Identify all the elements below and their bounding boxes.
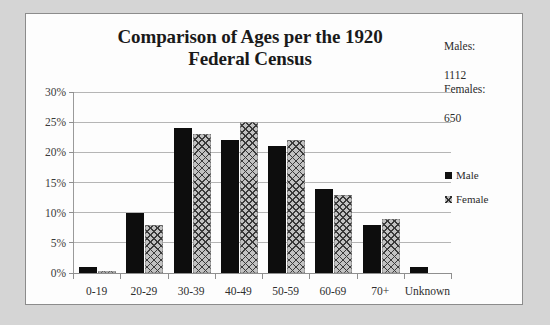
y-tick-5 — [69, 242, 74, 243]
annotation-males-label: Males: — [444, 39, 475, 54]
bar-male-40-49 — [221, 140, 239, 273]
x-axis-label-30-39: 30-39 — [178, 285, 205, 297]
y-axis-label-25%: 25% — [45, 116, 66, 128]
y-tick-10 — [69, 212, 74, 213]
y-tick-30 — [69, 92, 74, 93]
x-axis-label-20-29: 20-29 — [130, 285, 157, 297]
y-axis-label-30%: 30% — [45, 86, 66, 98]
x-axis-label-60-69: 60-69 — [319, 285, 346, 297]
x-tick-6 — [357, 273, 358, 279]
chart-title-line-1: Comparison of Ages per the 1920 — [66, 26, 434, 48]
x-axis-label-Unknown: Unknown — [405, 285, 450, 297]
bar-male-60-69 — [315, 189, 333, 273]
x-axis-label-0-19: 0-19 — [86, 285, 107, 297]
bar-male-70+ — [363, 225, 381, 273]
bar-female-70+ — [382, 219, 400, 273]
y-axis-label-15%: 15% — [45, 177, 66, 189]
legend-item-female: Female — [445, 193, 488, 205]
bar-female-50-59 — [287, 140, 305, 273]
bar-female-30-39 — [193, 134, 211, 273]
gridline-15 — [74, 182, 451, 183]
bar-male-20-29 — [126, 213, 144, 273]
x-tick-8 — [451, 273, 452, 279]
legend-label-male: Male — [456, 169, 479, 181]
chart-panel: Comparison of Ages per the 1920 Federal … — [25, 13, 523, 305]
y-tick-20 — [69, 152, 74, 153]
x-tick-4 — [262, 273, 263, 279]
bar-female-20-29 — [145, 225, 163, 273]
chart-screenshot: Comparison of Ages per the 1920 Federal … — [0, 0, 550, 325]
y-axis-label-0%: 0% — [51, 267, 66, 279]
y-tick-25 — [69, 122, 74, 123]
x-tick-7 — [404, 273, 405, 279]
x-tick-2 — [168, 273, 169, 279]
gridline-30 — [74, 92, 451, 93]
x-tick-3 — [215, 273, 216, 279]
legend-label-female: Female — [456, 193, 488, 205]
bar-male-50-59 — [268, 146, 286, 273]
bar-female-60-69 — [334, 195, 352, 273]
x-tick-1 — [120, 273, 121, 279]
bar-male-30-39 — [174, 128, 192, 273]
chart-legend: Male Female — [445, 169, 488, 217]
x-axis-label-40-49: 40-49 — [225, 285, 252, 297]
chart-title: Comparison of Ages per the 1920 Federal … — [66, 26, 434, 71]
chart-title-line-2: Federal Census — [66, 48, 434, 70]
legend-item-male: Male — [445, 169, 488, 181]
bar-female-40-49 — [240, 122, 258, 273]
gridline-25 — [74, 122, 451, 123]
x-axis-label-50-59: 50-59 — [272, 285, 299, 297]
x-tick-0 — [73, 273, 74, 279]
y-axis-label-10%: 10% — [45, 207, 66, 219]
gridline-20 — [74, 152, 451, 153]
x-axis-label-70+: 70+ — [371, 285, 389, 297]
y-axis-label-20%: 20% — [45, 146, 66, 158]
plot-area: 0%5%10%15%20%25%30% 0-1920-2930-3940-495… — [73, 92, 451, 273]
x-tick-5 — [309, 273, 310, 279]
plot-inner: 0%5%10%15%20%25%30% — [73, 92, 451, 273]
y-tick-15 — [69, 182, 74, 183]
x-axis: 0-1920-2930-3940-4950-5960-6970+Unknown — [73, 273, 451, 313]
y-axis-label-5%: 5% — [51, 237, 66, 249]
